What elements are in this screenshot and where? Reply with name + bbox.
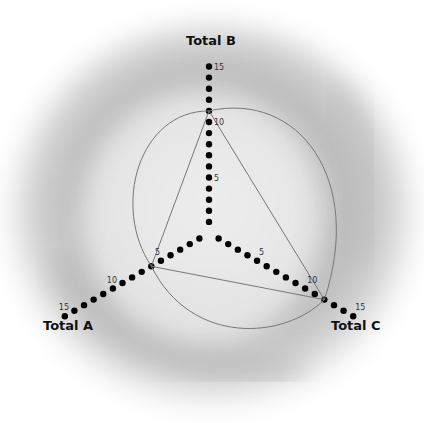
axis-dot: [302, 285, 308, 291]
axis-dot: [206, 63, 212, 69]
axis-dot: [206, 152, 212, 158]
tick-label: 15: [59, 303, 69, 312]
axis-dot: [206, 174, 212, 180]
tick-label: 10: [107, 276, 117, 285]
axis-dot: [340, 308, 346, 314]
axis-dot: [129, 274, 135, 280]
axis-dot: [206, 185, 212, 191]
axis-dot: [119, 280, 125, 286]
axis-dot: [206, 197, 212, 203]
tick-label: 15: [355, 303, 365, 312]
axis-dot: [110, 285, 116, 291]
axis-dot: [71, 308, 77, 314]
axis-dot: [283, 274, 289, 280]
radar-chart: 510155101551015 Total B Total A Total C: [0, 0, 424, 423]
axis-title-b: Total B: [186, 33, 236, 48]
tick-label: 5: [214, 174, 219, 183]
axis-dot: [206, 141, 212, 147]
axis-dot: [292, 280, 298, 286]
axis-dot: [225, 241, 231, 247]
axis-dot: [167, 252, 173, 258]
axis-dot: [206, 86, 212, 92]
axis-dot: [244, 252, 250, 258]
tick-label: 10: [214, 118, 224, 127]
axis-dot: [177, 246, 183, 252]
tick-label: 10: [307, 276, 317, 285]
axis-dot: [263, 263, 269, 269]
axis-dot: [273, 269, 279, 275]
axis-dot: [331, 302, 337, 308]
axis-dot: [235, 246, 241, 252]
axis-title-a: Total A: [43, 318, 93, 333]
axis-dot: [158, 258, 164, 264]
axis-dot: [139, 269, 145, 275]
tick-label: 15: [214, 63, 224, 72]
axis-dot: [312, 291, 318, 297]
axis-dot: [206, 119, 212, 125]
tick-label: 5: [155, 248, 160, 257]
axis-dot: [206, 219, 212, 225]
axis-dot: [254, 258, 260, 264]
axis-dot: [206, 97, 212, 103]
axis-dot: [81, 302, 87, 308]
tick-label: 5: [259, 248, 264, 257]
axis-dot: [100, 291, 106, 297]
axis-dot: [206, 130, 212, 136]
axis-dot: [187, 241, 193, 247]
chart-canvas: 510155101551015: [0, 0, 424, 423]
background-swirl: [12, 25, 412, 405]
axis-dot: [206, 163, 212, 169]
axis-dot: [206, 208, 212, 214]
axis-dot: [206, 74, 212, 80]
axis-title-c: Total C: [331, 318, 381, 333]
axis-dot: [215, 235, 221, 241]
axis-dot: [90, 296, 96, 302]
axis-dot: [196, 235, 202, 241]
